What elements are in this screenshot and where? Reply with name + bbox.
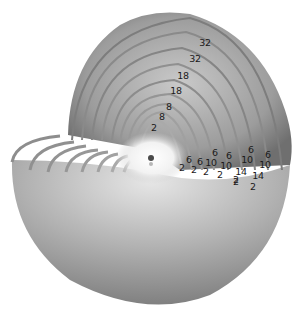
subshell-label: 2	[179, 163, 185, 173]
shell-label: 8	[166, 102, 172, 112]
nucleus-icon	[148, 155, 154, 161]
shell-label: 18	[177, 71, 189, 81]
shell-label: 18	[170, 86, 182, 96]
subshell-label: 10	[205, 158, 217, 168]
subshell-label: 6	[197, 157, 203, 167]
shell-label: 32	[199, 38, 211, 48]
subshell-label: 2	[233, 177, 239, 187]
atom-shell-diagram: 2 8 8 18 18 32 32 2 6 2 6 2 6 10 2 6 10 …	[0, 0, 295, 316]
shell-label: 2	[151, 123, 157, 133]
subshell-label: 10	[241, 155, 253, 165]
subshell-label: 14	[252, 171, 264, 181]
subshell-label: 2	[250, 182, 256, 192]
nucleus-reflection	[149, 162, 153, 166]
subshell-label: 2	[191, 165, 197, 175]
shell-label: 32	[189, 54, 201, 64]
shell-label: 8	[159, 112, 165, 122]
subshell-label: 2	[217, 170, 223, 180]
subshell-label: 10	[220, 161, 232, 171]
subshell-label: 2	[203, 167, 209, 177]
subshell-label: 10	[259, 160, 271, 170]
